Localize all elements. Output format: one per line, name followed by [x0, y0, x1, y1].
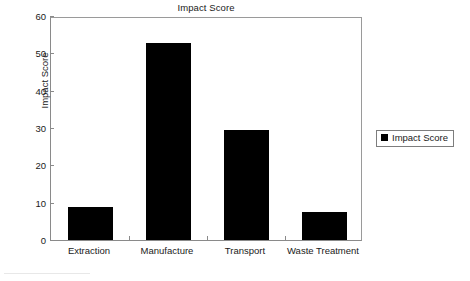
legend-swatch-icon [381, 134, 388, 141]
legend-entry-label: Impact Score [392, 133, 448, 143]
y-tick-label: 10 [16, 198, 46, 209]
y-tick-label: 20 [16, 160, 46, 171]
y-tick-mark [50, 53, 54, 54]
y-tick-label: 40 [16, 86, 46, 97]
y-tick-mark [50, 165, 54, 166]
y-tick-mark [50, 128, 54, 129]
legend: Impact Score [376, 130, 454, 147]
y-tick-mark [50, 91, 54, 92]
x-tick-mark [285, 236, 286, 240]
y-tick-label: 0 [16, 235, 46, 246]
y-tick-label: 30 [16, 123, 46, 134]
plot-inner [51, 18, 361, 240]
x-tick-mark [129, 236, 130, 240]
bar [68, 207, 113, 240]
y-tick-label: 60 [16, 11, 46, 22]
x-tick-mark [207, 236, 208, 240]
scan-artifact [4, 273, 90, 274]
x-axis-category-label: Transport [206, 245, 284, 256]
y-tick-label: 50 [16, 48, 46, 59]
y-tick-mark [50, 16, 54, 17]
x-axis-category-label: Manufacture [128, 245, 206, 256]
y-tick-mark [50, 203, 54, 204]
x-axis-category-label: Waste Treatment [284, 245, 362, 256]
x-axis-category-label: Extraction [50, 245, 128, 256]
chart-title: Impact Score [50, 2, 362, 13]
bar-chart: Impact Score Impact Score 0102030405060 … [0, 0, 470, 281]
plot-area [50, 17, 362, 241]
bar [302, 212, 347, 240]
bar [224, 130, 269, 240]
y-tick-mark [50, 240, 54, 241]
bar [146, 43, 191, 240]
